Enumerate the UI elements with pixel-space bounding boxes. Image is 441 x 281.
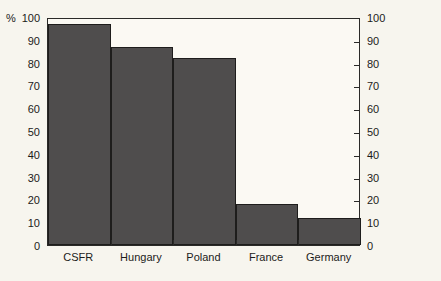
y-axis-left-tick-label: 40: [0, 150, 40, 161]
y-axis-left-tick-label: 70: [0, 81, 40, 92]
bar: [236, 204, 299, 245]
y-axis-right-tick: [354, 87, 359, 88]
y-axis-left-tick-label: 100: [0, 13, 40, 24]
y-axis-right-tick: [354, 42, 359, 43]
y-axis-right-tick-label: 0: [367, 241, 373, 252]
y-axis-left-tick-label: 60: [0, 104, 40, 115]
y-axis-left-tick-label: 50: [0, 127, 40, 138]
y-axis-left-tick-label: 20: [0, 195, 40, 206]
x-axis-category-label: France: [235, 252, 298, 263]
x-axis-tick: [173, 240, 174, 245]
y-axis-right-tick: [354, 110, 359, 111]
x-axis-tick: [298, 240, 299, 245]
y-axis-right-tick: [354, 179, 359, 180]
bar: [173, 58, 236, 245]
x-axis-category-label: Germany: [297, 252, 360, 263]
y-axis-right-tick-label: 40: [367, 150, 379, 161]
y-axis-left-tick-label: 0: [0, 241, 40, 252]
y-axis-left-tick-label: 30: [0, 173, 40, 184]
y-axis-right-tick-label: 10: [367, 218, 379, 229]
y-axis-right-tick: [354, 133, 359, 134]
y-axis-right-tick-label: 50: [367, 127, 379, 138]
bar-chart-figure: % 0102030405060708090100 010203040506070…: [0, 0, 441, 281]
y-axis-right-tick-label: 60: [367, 104, 379, 115]
y-axis-right-tick-label: 20: [367, 195, 379, 206]
x-axis-tick: [111, 240, 112, 245]
y-axis-right-tick-label: 30: [367, 173, 379, 184]
plot-area: [47, 18, 360, 246]
y-axis-right-tick: [354, 65, 359, 66]
x-axis-category-label: Hungary: [110, 252, 173, 263]
bar: [298, 218, 361, 245]
y-axis-left-tick-label: 10: [0, 218, 40, 229]
bar: [111, 47, 174, 245]
y-axis-right-tick-label: 100: [367, 13, 385, 24]
bar: [48, 24, 111, 245]
y-axis-left-tick-label: 90: [0, 36, 40, 47]
x-axis-category-label: Poland: [172, 252, 235, 263]
y-axis-right-tick-label: 90: [367, 36, 379, 47]
y-axis-right-tick-label: 70: [367, 81, 379, 92]
x-axis-category-label: CSFR: [47, 252, 110, 263]
y-axis-left-tick-label: 80: [0, 59, 40, 70]
y-axis-right-tick: [354, 201, 359, 202]
y-axis-right-tick: [354, 156, 359, 157]
x-axis-tick: [236, 240, 237, 245]
y-axis-right-tick-label: 80: [367, 59, 379, 70]
